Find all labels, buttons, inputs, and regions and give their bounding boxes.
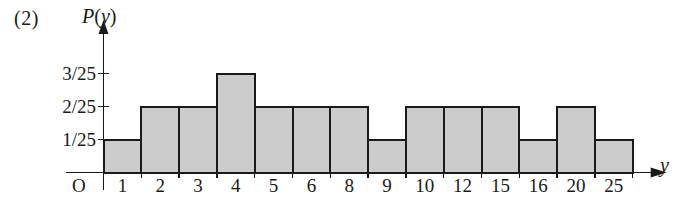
y-axis-arrowhead <box>99 20 109 34</box>
histogram-bar <box>104 140 142 173</box>
histogram-plot-area <box>0 0 678 210</box>
histogram-bar <box>330 107 368 173</box>
histogram-bar <box>444 107 482 173</box>
histogram-bar <box>255 107 293 173</box>
histogram-bar <box>293 107 331 173</box>
histogram-bar <box>482 107 520 173</box>
x-axis-arrowhead <box>651 168 667 178</box>
histogram-bar <box>595 140 633 173</box>
histogram-bar <box>141 107 179 173</box>
bars-group <box>104 74 633 173</box>
histogram-bar <box>179 107 217 173</box>
histogram-bar <box>406 107 444 173</box>
histogram-bar <box>368 140 406 173</box>
histogram-figure: (2) P(y) y O 1/252/253/25 12345689101215… <box>0 0 678 210</box>
histogram-bar <box>557 107 595 173</box>
histogram-bar <box>217 74 255 173</box>
histogram-bar <box>519 140 557 173</box>
